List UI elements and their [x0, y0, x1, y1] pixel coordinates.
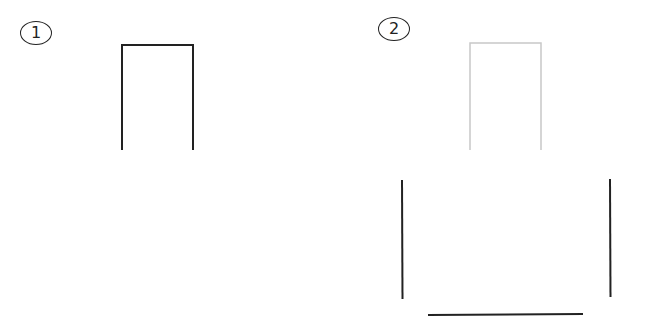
panel-2-faded-shape	[470, 43, 541, 150]
panel-2-lines	[402, 179, 611, 315]
panel-1-shape	[122, 45, 193, 150]
diagram-canvas	[0, 0, 657, 328]
